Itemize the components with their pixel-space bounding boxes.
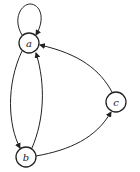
graph-svg: a b c: [0, 0, 140, 172]
edge-b-to-a: [32, 53, 42, 148]
edge-b-to-c: [36, 112, 111, 156]
graph-canvas: a b c: [0, 0, 140, 172]
node-c-label: c: [113, 97, 119, 108]
node-a: a: [19, 33, 39, 53]
node-a-label: a: [26, 38, 32, 49]
edge-a-a-self-loop: [18, 4, 41, 35]
node-b-label: b: [23, 152, 29, 163]
node-c: c: [106, 92, 126, 112]
node-b: b: [16, 147, 36, 167]
edge-c-to-a: [40, 45, 112, 92]
edge-a-to-b: [11, 51, 23, 148]
